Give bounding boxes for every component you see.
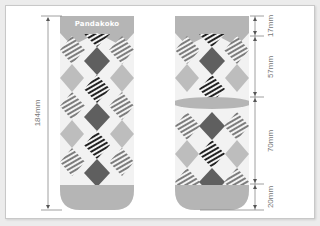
sock-diagram: Pandakoko 184mm bbox=[0, 0, 320, 226]
heel bbox=[172, 97, 252, 109]
foot-length-label: 70mm bbox=[266, 130, 275, 153]
left-sock bbox=[60, 16, 134, 215]
right-sock bbox=[172, 16, 252, 215]
total-length-dimension bbox=[41, 16, 62, 210]
total-length-label: 184mm bbox=[33, 99, 42, 126]
toe bbox=[175, 185, 249, 215]
toe bbox=[60, 185, 134, 215]
toe-length-label: 20mm bbox=[266, 186, 275, 209]
cuff-length-label: 17mm bbox=[266, 15, 275, 38]
brand-label: Pandakoko bbox=[75, 20, 120, 28]
leg-length-label: 57mm bbox=[266, 56, 275, 79]
